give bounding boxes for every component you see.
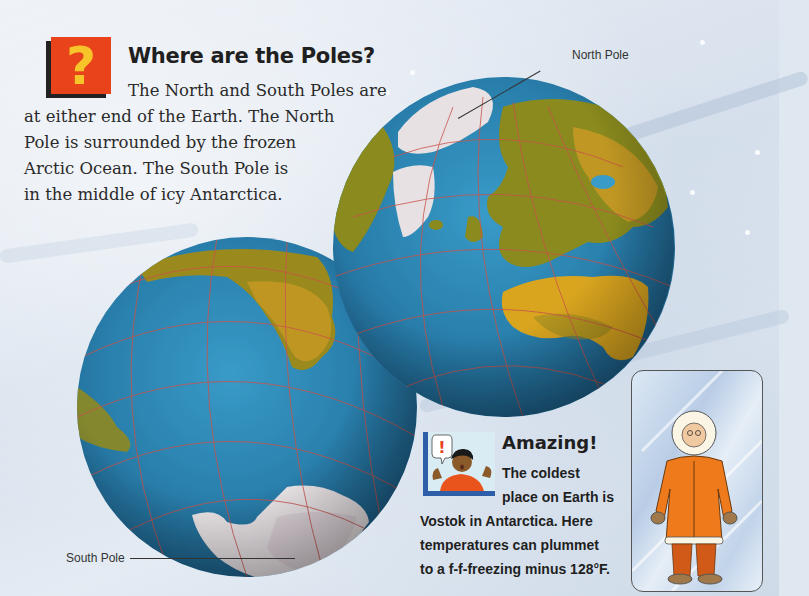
snowflake xyxy=(410,70,415,75)
amazing-fact: The coldest place on Earth is Vostok in … xyxy=(420,461,640,581)
snowflake xyxy=(755,150,760,155)
svg-text:!: ! xyxy=(438,438,445,457)
south-pole-leader-line xyxy=(130,558,295,559)
south-pole-label: South Pole xyxy=(66,551,125,565)
snowflake xyxy=(700,40,705,45)
frozen-explorer-illustration xyxy=(631,370,763,592)
snowflake xyxy=(745,230,750,235)
section-title: Where are the Poles? xyxy=(128,44,375,68)
north-pole-globe xyxy=(333,77,675,417)
north-pole-label: North Pole xyxy=(572,48,629,62)
snowflake xyxy=(690,190,695,195)
amazing-title: Amazing! xyxy=(502,432,597,453)
